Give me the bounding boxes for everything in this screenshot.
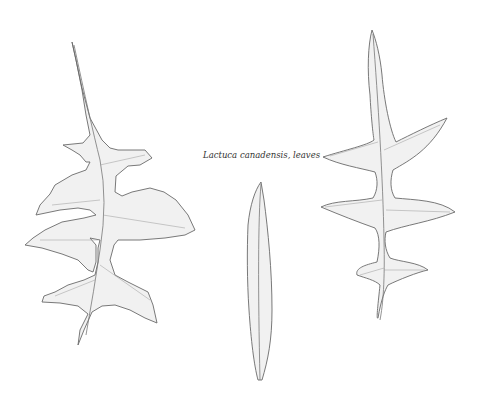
left-leaf: [25, 42, 195, 345]
center-leaf: [247, 182, 272, 380]
leaf-drawings: [0, 0, 477, 406]
plate-caption: Lactuca canadensis, leaves: [203, 150, 320, 160]
right-leaf: [321, 30, 455, 320]
